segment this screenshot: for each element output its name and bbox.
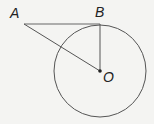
label-o: O — [103, 70, 114, 84]
center-point-o — [98, 69, 102, 73]
segment-ao — [24, 24, 100, 71]
geometry-diagram: A B O — [0, 0, 154, 124]
label-a: A — [10, 6, 19, 20]
label-b: B — [95, 5, 104, 19]
diagram-canvas — [0, 0, 154, 124]
